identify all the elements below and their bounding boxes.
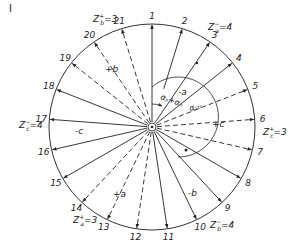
spoke-label-14: 14 xyxy=(71,203,83,213)
count-zc-plus: Z+c=3 xyxy=(262,125,287,139)
spoke-13 xyxy=(108,132,150,219)
spoke-label-16: 16 xyxy=(38,147,50,157)
spoke-10 xyxy=(154,132,196,219)
group-label-minus-a: -a xyxy=(178,87,187,97)
spoke-label-10: 10 xyxy=(194,222,206,232)
spoke-label-11: 11 xyxy=(163,232,174,242)
group-label-minus-c: -c xyxy=(75,126,83,136)
count-zb-minus: Z−b=4 xyxy=(209,218,235,232)
spoke-label-2: 2 xyxy=(182,16,188,26)
spoke-16 xyxy=(53,128,148,150)
angle-arc-dot xyxy=(196,62,198,64)
svg-text:Z−b=4: Z−b=4 xyxy=(209,218,235,232)
spoke-20 xyxy=(95,43,150,123)
angle-label-alpha-str: αₛₜᵣ xyxy=(188,101,203,113)
spoke-label-13: 13 xyxy=(98,222,110,232)
svg-text:Z−a=4: Z−a=4 xyxy=(207,20,232,34)
spoke-label-20: 20 xyxy=(84,30,96,40)
spoke-15 xyxy=(64,130,148,179)
center-point xyxy=(151,126,154,129)
angle-arc-end-dot xyxy=(185,149,188,152)
spoke-label-15: 15 xyxy=(50,178,62,188)
spoke-label-19: 19 xyxy=(59,53,71,63)
spoke-label-12: 12 xyxy=(130,232,142,242)
spoke-6 xyxy=(157,119,254,126)
spoke-3 xyxy=(155,43,210,123)
svg-text:Z+c=3: Z+c=3 xyxy=(262,125,287,139)
spoke-7 xyxy=(157,128,252,150)
svg-text:Z+b=3: Z+b=3 xyxy=(92,12,118,26)
group-label-minus-b: -b xyxy=(188,188,197,198)
count-zb-plus: Z+b=3 xyxy=(92,12,118,26)
spoke-18 xyxy=(57,90,147,125)
count-za-plus: Z+a=3 xyxy=(72,213,97,227)
spoke-11 xyxy=(153,132,167,228)
spoke-label-1: 1 xyxy=(149,11,155,21)
group-label-plus-b: +b xyxy=(105,64,119,74)
spoke-12 xyxy=(137,132,151,228)
spoke-label-5: 5 xyxy=(252,81,258,91)
count-za-minus: Z−a=4 xyxy=(207,20,232,34)
svg-text:Z+a=3: Z+a=3 xyxy=(72,213,97,227)
spoke-21 xyxy=(122,30,151,123)
svg-text:Z−c=4: Z−c=4 xyxy=(18,118,43,132)
figure-marker: I xyxy=(9,3,12,14)
spoke-label-9: 9 xyxy=(225,203,231,213)
spoke-label-7: 7 xyxy=(257,147,263,157)
spoke-8 xyxy=(156,130,240,179)
group-label-plus-a: +a xyxy=(113,189,126,199)
spoke-label-8: 8 xyxy=(245,178,251,188)
phasor-star-diagram: I 123456789101112131415161718192021 αₛ+α… xyxy=(0,0,295,248)
spoke-label-4: 4 xyxy=(236,53,242,63)
spoke-label-18: 18 xyxy=(43,81,55,91)
spoke-17 xyxy=(50,119,147,126)
spoke-label-6: 6 xyxy=(260,114,266,124)
spoke-2 xyxy=(164,30,182,89)
angle-arc-alpha-s-n xyxy=(152,104,162,106)
count-zc-minus: Z−c=4 xyxy=(18,118,43,132)
group-label-plus-c: +c xyxy=(212,119,225,129)
